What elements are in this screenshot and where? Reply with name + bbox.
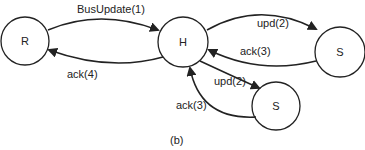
edge-label-upd-s1: upd(2) [257,18,289,29]
diagram-canvas [0,0,365,150]
node-h-label: H [173,37,193,48]
edge-label-upd-s2: upd(2) [214,76,246,87]
edge-label-ack3-s2: ack(3) [176,100,207,111]
edge-ack4 [49,50,163,63]
figure-caption: (b) [170,135,183,146]
node-s1-label: S [330,47,350,58]
edge-label-busupdate: BusUpdate(1) [77,4,145,15]
edge-busupdate [48,19,158,30]
node-r-label: R [15,36,35,47]
edge-label-ack3-s1: ack(3) [240,46,271,57]
node-s2-label: S [266,101,286,112]
edge-label-ack4: ack(4) [67,69,98,80]
